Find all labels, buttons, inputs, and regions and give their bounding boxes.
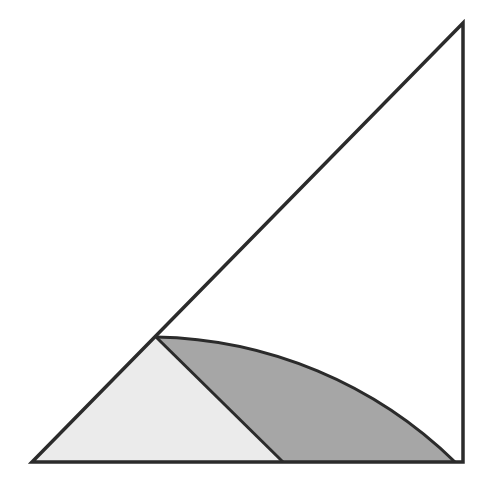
geometry-diagram: [0, 0, 488, 495]
